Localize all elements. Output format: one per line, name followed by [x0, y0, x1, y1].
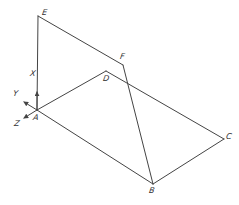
point-label-b: B: [148, 187, 155, 195]
axis-label-x: X: [29, 70, 36, 78]
axis-y-arrow: [24, 102, 37, 110]
point-label-d: D: [102, 75, 109, 83]
axis-label-y: Y: [12, 90, 18, 98]
point-label-f: F: [119, 53, 125, 61]
diagram-lines: [0, 0, 239, 205]
point-label-c: C: [225, 133, 232, 141]
edge-a-b: [37, 110, 153, 184]
edge-e-f: [38, 16, 123, 65]
edge-b-c: [153, 139, 224, 184]
edge-a-d: [37, 71, 106, 110]
point-label-a: A: [32, 114, 39, 122]
edge-d-c: [106, 71, 224, 139]
geometry-diagram: E F D A B C X Y Z: [0, 0, 239, 205]
axis-label-z: Z: [13, 120, 20, 128]
